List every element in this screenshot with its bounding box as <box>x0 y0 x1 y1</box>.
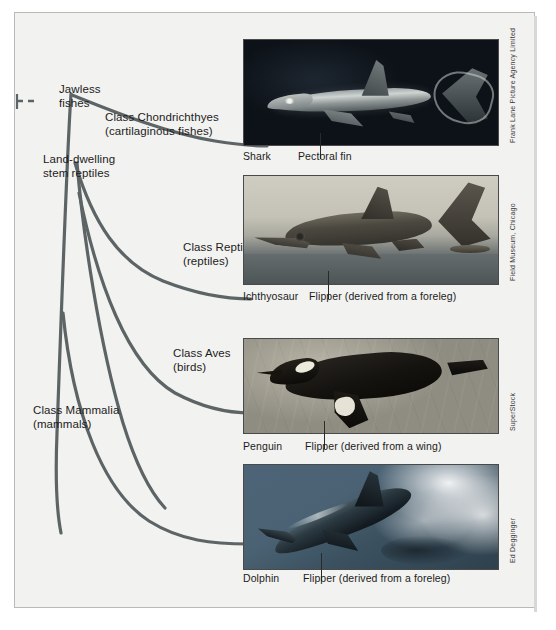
caption-shark: Shark <box>243 150 271 162</box>
caption-dolphin: Dolphin <box>243 572 279 584</box>
penguin-photograph <box>244 339 498 433</box>
photo-credit-shark: Frank Lane Picture Agency Limited <box>509 28 516 143</box>
photo-plate-ichthyosaur <box>243 175 499 285</box>
caption-ichthyosaur: Ichthyosaur <box>243 290 298 302</box>
caption-penguin: Penguin <box>243 440 282 452</box>
shark-pelvic-fin-shape <box>389 111 417 124</box>
root-stub <box>17 94 35 109</box>
branch-label-aves-line1: Class Aves <box>173 347 231 361</box>
ichthyosaur-tail-fin-shape <box>437 182 493 249</box>
node-label-stem-reptiles-line1: Land-dwelling <box>43 153 115 167</box>
branch-label-mammalia-line1: Class Mammalia <box>33 404 119 418</box>
branch-stem-reptiles <box>77 163 165 508</box>
branch-label-chondrichthyes-line1: Class Chondrichthyes <box>105 111 219 125</box>
ichthyosaur-sea-shape <box>244 254 498 284</box>
photo-plate-penguin <box>243 338 499 434</box>
shark-eye-shape <box>285 98 294 104</box>
branch-line-aves <box>79 193 251 413</box>
photo-credit-penguin: SuperStock <box>509 393 516 431</box>
shark-photograph <box>244 40 498 145</box>
photo-credit-ichthyosaur: Field Museum, Chicago <box>509 203 516 281</box>
ichthyosaur-background-fish-shape <box>450 245 491 253</box>
shark-background-glow-shape <box>428 65 498 129</box>
branch-label-mammalia: Class Mammalia (mammals) <box>33 404 119 431</box>
dolphin-photograph <box>244 465 498 569</box>
caption-penguin-structure: Flipper (derived from a wing) <box>305 440 442 452</box>
ichthyosaur-eye-shape <box>295 232 305 241</box>
caption-shark-structure: Pectoral fin <box>298 150 352 162</box>
caption-dolphin-structure: Flipper (derived from a foreleg) <box>303 572 450 584</box>
branch-label-mammalia-line2: (mammals) <box>33 418 119 432</box>
ichthyosaur-dorsal-fin-shape <box>358 187 394 219</box>
figure-frame: Jawless fishes Land-dwelling stem reptil… <box>14 12 535 608</box>
photo-credit-dolphin: Ed Degginger <box>509 518 516 563</box>
node-label-jawless-fishes: Jawless fishes <box>59 83 101 110</box>
branch-label-aves-line2: (birds) <box>173 361 231 375</box>
branch-label-chondrichthyes-line2: (cartilaginous fishes) <box>105 125 219 139</box>
ichthyosaur-painting <box>244 176 498 284</box>
node-label-stem-reptiles: Land-dwelling stem reptiles <box>43 153 115 180</box>
shark-pectoral-fin-shape <box>323 109 364 127</box>
photo-plate-shark <box>243 39 499 146</box>
dolphin-second-animal-shape <box>381 536 467 565</box>
branch-label-chondrichthyes: Class Chondrichthyes (cartilaginous fish… <box>105 111 219 138</box>
node-label-jawless-fishes-line1: Jawless <box>59 83 101 97</box>
node-label-jawless-fishes-line2: fishes <box>59 97 101 111</box>
caption-ichthyosaur-structure: Flipper (derived from a foreleg) <box>309 290 456 302</box>
photo-plate-dolphin <box>243 464 499 570</box>
node-label-stem-reptiles-line2: stem reptiles <box>43 167 115 181</box>
branch-label-aves: Class Aves (birds) <box>173 347 231 374</box>
